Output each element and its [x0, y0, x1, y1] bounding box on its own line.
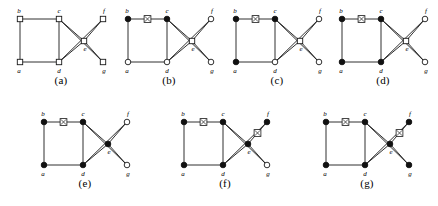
graph-drawing-e: abcdefg	[30, 103, 140, 183]
vertex-c	[220, 119, 226, 125]
vertex-c	[272, 16, 278, 22]
vertex-d	[220, 162, 226, 168]
edge-marker-b-c	[60, 119, 67, 126]
edge-e-g	[300, 41, 319, 62]
edge-e-f	[406, 19, 425, 41]
vertex-label-b: b	[125, 7, 129, 15]
graph-panel-c: abcdefg(c)	[222, 0, 332, 103]
vertex-d	[362, 162, 368, 168]
panel-caption-g: (g)	[312, 177, 422, 189]
vertex-label-e: e	[405, 45, 408, 53]
vertex-g	[124, 162, 130, 168]
edge-e-f	[108, 122, 127, 144]
vertex-b	[323, 119, 329, 125]
vertex-label-f: f	[319, 7, 322, 15]
edge-e-f	[300, 19, 319, 41]
vertex-c	[80, 119, 86, 125]
panel-caption-a: (a)	[6, 74, 116, 86]
vertex-e	[387, 141, 393, 147]
vertex-label-f: f	[103, 7, 106, 15]
vertex-label-c: c	[57, 7, 61, 15]
panel-caption-d: (d)	[328, 74, 438, 86]
edge-e-g	[192, 41, 211, 62]
edge-e-f	[84, 19, 103, 41]
vertex-a	[125, 59, 131, 65]
edge-marker-b-c	[144, 16, 151, 23]
vertex-b	[339, 16, 345, 22]
vertex-d	[272, 59, 278, 65]
panel-caption-f: (f)	[170, 177, 280, 189]
vertex-c	[56, 16, 61, 21]
graph-drawing-d: abcdefg	[328, 0, 438, 80]
vertex-a	[41, 162, 47, 168]
vertex-f	[316, 16, 322, 22]
vertex-label-c: c	[363, 110, 367, 118]
graph-drawing-b: abcdefg	[114, 0, 224, 80]
vertex-f	[264, 119, 270, 125]
vertex-label-b: b	[17, 7, 21, 15]
vertex-label-c: c	[81, 110, 85, 118]
vertex-label-b: b	[181, 110, 185, 118]
panel-caption-c: (c)	[222, 74, 332, 86]
vertex-e	[245, 141, 251, 147]
vertex-d	[378, 59, 384, 65]
vertex-b	[233, 16, 239, 22]
graph-panel-e: abcdefg(e)	[30, 103, 140, 206]
vertex-f	[422, 16, 428, 22]
graph-drawing-a: abcdefg	[6, 0, 116, 80]
vertex-f	[208, 16, 214, 22]
graph-drawing-c: abcdefg	[222, 0, 332, 80]
vertex-g	[422, 59, 428, 65]
vertex-c	[362, 119, 368, 125]
graph-panel-g: abcdefg(g)	[312, 103, 422, 206]
vertex-a	[233, 59, 239, 65]
edge-marker-b-c	[358, 16, 365, 23]
vertex-b	[41, 119, 47, 125]
graph-drawing-g: abcdefg	[312, 103, 422, 183]
graph-panel-a: abcdefg(a)	[6, 0, 116, 103]
vertex-label-c: c	[273, 7, 277, 15]
vertex-b	[181, 119, 187, 125]
graph-drawing-f: abcdefg	[170, 103, 280, 183]
vertex-g	[264, 162, 270, 168]
vertex-label-f: f	[425, 7, 428, 15]
vertex-f	[100, 16, 105, 21]
figure-graph-sequence: abcdefg(a)abcdefg(b)abcdefg(c)abcdefg(d)…	[0, 0, 438, 206]
vertex-label-f: f	[211, 7, 214, 15]
vertex-d	[56, 59, 61, 64]
vertex-label-b: b	[41, 110, 45, 118]
vertex-label-e: e	[299, 45, 302, 53]
vertex-f	[406, 119, 412, 125]
vertex-label-b: b	[323, 110, 327, 118]
vertex-label-e: e	[191, 45, 194, 53]
vertex-e	[297, 38, 302, 43]
vertex-a	[339, 59, 345, 65]
edge-marker-e-f	[396, 130, 403, 137]
vertex-g	[406, 162, 412, 168]
panel-caption-e: (e)	[30, 177, 140, 189]
vertex-d	[80, 162, 86, 168]
vertex-e	[105, 141, 111, 147]
edge-e-f	[192, 19, 211, 41]
vertex-e	[189, 38, 194, 43]
edge-e-g	[390, 144, 409, 165]
vertex-label-c: c	[221, 110, 225, 118]
edge-e-g	[84, 41, 103, 62]
vertex-e	[81, 38, 86, 43]
vertex-g	[208, 59, 214, 65]
edge-marker-b-c	[252, 16, 259, 23]
vertex-label-c: c	[379, 7, 383, 15]
vertex-label-e: e	[247, 148, 250, 156]
vertex-e	[403, 38, 408, 43]
vertex-f	[124, 119, 130, 125]
vertex-a	[323, 162, 329, 168]
vertex-label-e: e	[107, 148, 110, 156]
vertex-g	[316, 59, 322, 65]
panel-caption-b: (b)	[114, 74, 224, 86]
graph-panel-b: abcdefg(b)	[114, 0, 224, 103]
vertex-label-b: b	[339, 7, 343, 15]
vertex-d	[164, 59, 170, 65]
vertex-c	[378, 16, 384, 22]
vertex-label-f: f	[267, 110, 270, 118]
edge-e-g	[108, 144, 127, 165]
